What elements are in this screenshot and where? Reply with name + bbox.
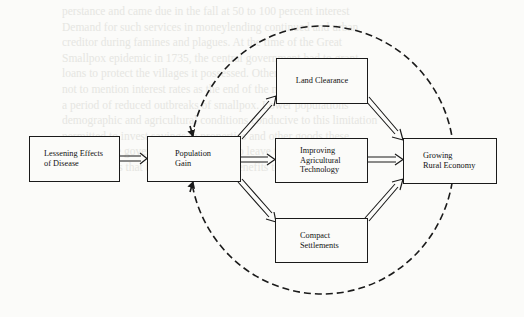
node-label-line: Agricultural [300, 156, 341, 166]
arrow-population-to-land [238, 96, 276, 139]
arrow-population-to-technology [240, 154, 275, 165]
node-label-line: Compact [300, 231, 339, 241]
node-improving-agricultural-technology: Improving Agricultural Technology [275, 138, 368, 183]
node-label-line: of Disease [44, 159, 103, 169]
node-label-line: Land Clearance [296, 76, 348, 86]
node-population-gain: Population Gain [147, 136, 241, 182]
node-label-line: Technology [300, 165, 341, 175]
node-label-line: Lessening Effects [44, 149, 103, 159]
node-lessening-effects-of-disease: Lessening Effects of Disease [29, 136, 120, 182]
arrow-technology-to-economy [367, 154, 403, 165]
node-label-line: Settlements [300, 241, 339, 251]
node-label-line: Growing [423, 151, 475, 161]
node-label-line: Population [175, 149, 211, 159]
arrow-land-to-economy [365, 97, 403, 140]
node-land-clearance: Land Clearance [276, 58, 368, 104]
node-label-line: Rural Economy [423, 161, 475, 171]
node-growing-rural-economy: Growing Rural Economy [403, 138, 497, 184]
node-compact-settlements: Compact Settlements [275, 218, 368, 263]
node-label-line: Improving [300, 146, 341, 156]
arrow-disease-to-population [119, 153, 147, 164]
node-label-line: Gain [175, 159, 211, 169]
arrow-population-to-settlements [238, 179, 276, 222]
arrow-settlements-to-economy [365, 179, 403, 221]
